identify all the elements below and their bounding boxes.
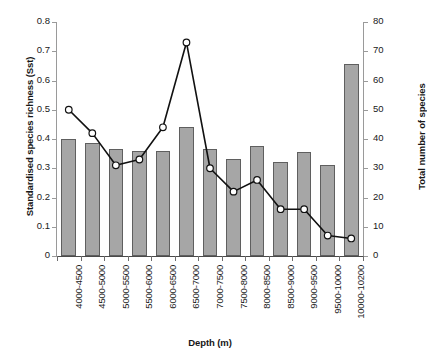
y-left-tick-label: 0.6: [37, 74, 50, 85]
y-left-tick-label: 0.3: [37, 161, 50, 172]
x-tick-label: 6500-7000: [190, 265, 201, 309]
y-right-tick: [363, 139, 368, 140]
line-marker: [230, 188, 237, 195]
x-tick-label: 7500-8000: [238, 265, 249, 309]
x-tick-label: 5500-6000: [143, 265, 154, 309]
x-tick-label: 10000-10200: [355, 265, 366, 319]
x-tick-label: 9000-9500: [308, 265, 319, 309]
y-left-tick-label: 0: [45, 249, 50, 260]
y-left-tick-label: 0.2: [37, 191, 50, 202]
x-tick-label: 8500-9000: [285, 265, 296, 309]
y-right-tick-label: 40: [373, 132, 384, 143]
y-right-tick: [363, 110, 368, 111]
x-tick-label: 4000-4500: [73, 265, 84, 309]
x-tick-label: 7000-7500: [214, 265, 225, 309]
y-right-tick-label: 60: [373, 74, 384, 85]
line-marker: [113, 162, 120, 169]
line-marker: [89, 130, 96, 137]
y-right-tick-label: 0: [373, 249, 378, 260]
y-right-tick: [363, 22, 368, 23]
y-right-tick-label: 20: [373, 191, 384, 202]
x-axis-title: Depth (m): [60, 337, 360, 348]
line-markers: [65, 39, 354, 242]
line-marker: [348, 235, 355, 242]
y-left-tick-label: 0.7: [37, 44, 50, 55]
y-right-tick-label: 80: [373, 15, 384, 26]
line-marker: [207, 165, 214, 172]
x-tick-label: 8000-8500: [261, 265, 272, 309]
y-right-tick: [363, 81, 368, 82]
y-axis-left-title: Standardised species richness (Sst): [24, 47, 35, 227]
line-path: [69, 42, 351, 238]
line-marker: [183, 39, 190, 46]
line-marker: [65, 106, 72, 113]
x-tick-label: 9500-10000: [332, 265, 343, 314]
x-tick-label: 4500-5000: [96, 265, 107, 309]
y-right-tick: [363, 168, 368, 169]
y-left-tick-label: 0.5: [37, 103, 50, 114]
y-right-tick: [363, 227, 368, 228]
y-left-tick-label: 0.8: [37, 15, 50, 26]
line-marker: [277, 206, 284, 213]
y-left-tick-label: 0.4: [37, 132, 50, 143]
x-tick-label: 6000-6500: [167, 265, 178, 309]
y-right-tick: [363, 198, 368, 199]
line-marker: [254, 177, 261, 184]
x-tick-label: 5000-5500: [120, 265, 131, 309]
plot-area: 00.10.20.30.40.50.60.70.8 01020304050607…: [57, 22, 363, 256]
y-right-tick-label: 70: [373, 44, 384, 55]
y-right-tick-label: 10: [373, 220, 384, 231]
line-marker: [136, 156, 143, 163]
x-tick: [363, 256, 364, 261]
y-right-tick-label: 50: [373, 103, 384, 114]
y-right-tick-label: 30: [373, 161, 384, 172]
y-right-tick: [363, 51, 368, 52]
y-left-tick-label: 0.1: [37, 220, 50, 231]
line-marker: [160, 124, 167, 131]
line-marker: [301, 206, 308, 213]
line-series: [57, 22, 363, 257]
line-marker: [324, 232, 331, 239]
y-axis-right-title: Total number of species: [416, 47, 427, 227]
